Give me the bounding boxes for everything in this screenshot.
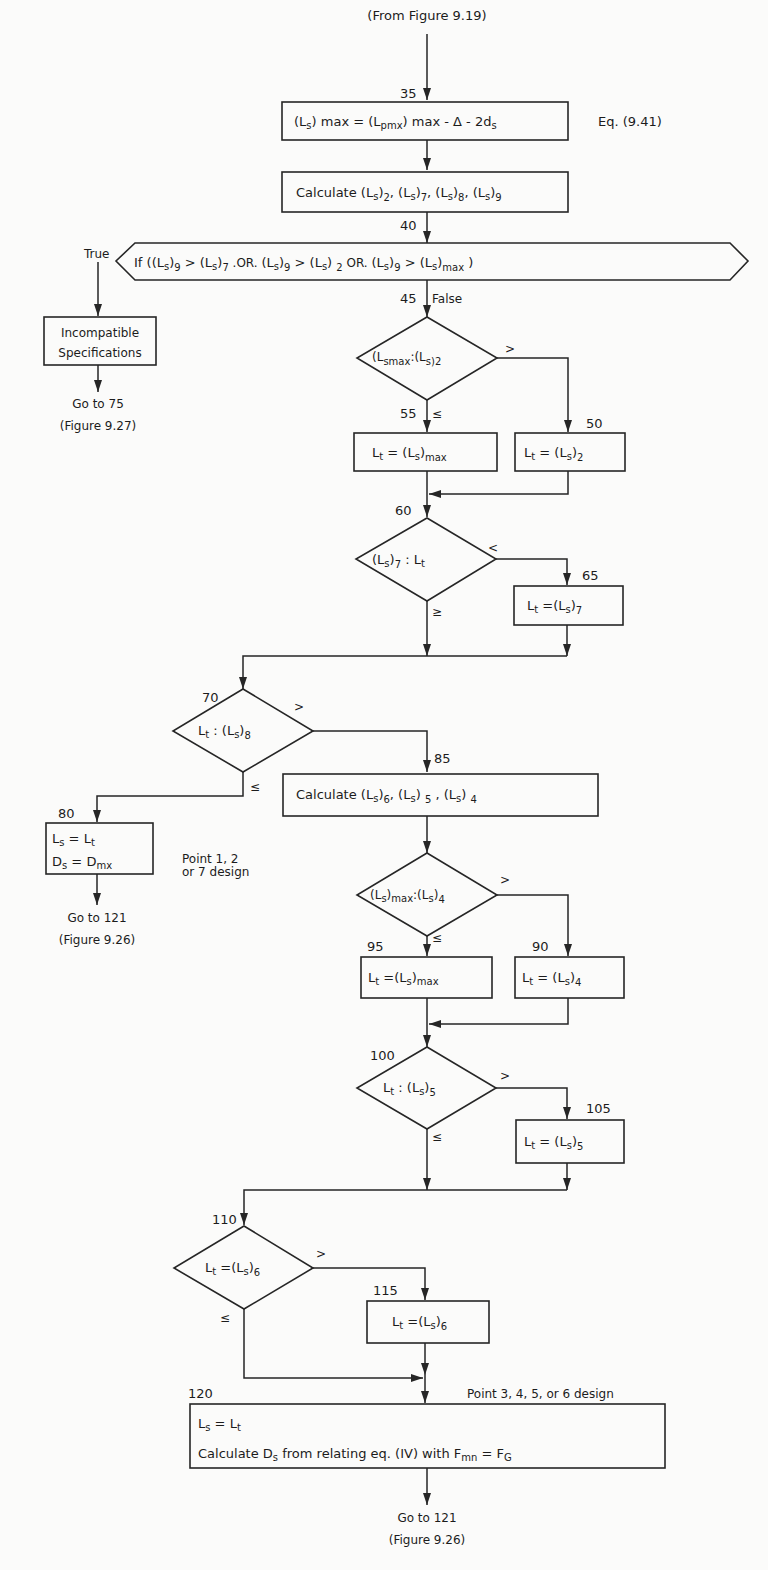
design-note-80-line1: Point 1, 2 — [182, 852, 239, 866]
true-label: True — [83, 247, 110, 261]
arrowhead-icon — [563, 1107, 571, 1119]
gt-label: > — [500, 1069, 510, 1083]
connector — [496, 1088, 567, 1119]
arrowhead-icon — [423, 1493, 431, 1505]
arrowhead-icon — [93, 893, 101, 905]
arrowhead-icon — [94, 304, 102, 316]
step-label-115: 115 — [373, 1283, 398, 1298]
ge-label: ≥ — [432, 605, 442, 619]
flowchart: (From Figure 9.19) 35 (Ls) max = (Lpmx) … — [0, 0, 768, 1570]
arrowhead-icon — [421, 1391, 429, 1403]
step-label-110: 110 — [212, 1212, 237, 1227]
arrowhead-icon — [429, 490, 441, 498]
connector — [97, 772, 243, 822]
arrowhead-icon — [411, 1374, 423, 1382]
arrowhead-icon — [423, 505, 431, 517]
arrowhead-icon — [423, 760, 431, 772]
le-label: ≤ — [220, 1311, 230, 1325]
arrowhead-icon — [423, 1178, 431, 1190]
step-label-85: 85 — [434, 751, 451, 766]
arrowhead-icon — [93, 810, 101, 822]
arrowhead-icon — [429, 1020, 441, 1028]
connector — [244, 1190, 567, 1225]
le-label: ≤ — [432, 1130, 442, 1144]
step-label-100: 100 — [370, 1048, 395, 1063]
false-label: False — [432, 292, 462, 306]
step-label-80: 80 — [58, 806, 75, 821]
arrowhead-icon — [94, 380, 102, 392]
connector — [496, 559, 567, 585]
design-note-120: Point 3, 4, 5, or 6 design — [467, 1387, 614, 1401]
goto-121-ref-b: (Figure 9.26) — [389, 1533, 466, 1547]
step-label-50: 50 — [586, 416, 603, 431]
le-label: ≤ — [432, 931, 442, 945]
goto-75-link[interactable]: Go to 75 — [72, 397, 124, 411]
step-label-70: 70 — [202, 690, 219, 705]
incompatible-line-2: Specifications — [58, 346, 141, 360]
arrowhead-icon — [423, 944, 431, 956]
arrowhead-icon — [423, 644, 431, 656]
step-label-65: 65 — [582, 568, 599, 583]
connector — [497, 358, 568, 432]
step-label-45: 45 — [400, 291, 417, 306]
lt-label: < — [488, 541, 498, 555]
arrowhead-icon — [423, 1035, 431, 1047]
arrowhead-icon — [563, 1178, 571, 1190]
arrowhead-icon — [423, 420, 431, 432]
connector — [429, 471, 568, 494]
arrowhead-icon — [423, 841, 431, 853]
step-label-35: 35 — [400, 86, 417, 101]
step-label-40: 40 — [400, 218, 417, 233]
arrowhead-icon — [423, 158, 431, 170]
goto-75-ref: (Figure 9.27) — [60, 419, 137, 433]
arrowhead-icon — [421, 1288, 429, 1300]
arrowhead-icon — [239, 677, 247, 689]
goto-121-link-b[interactable]: Go to 121 — [397, 1511, 456, 1525]
step-label-90: 90 — [532, 939, 549, 954]
arrowhead-icon — [564, 944, 572, 956]
entry-label: (From Figure 9.19) — [367, 8, 486, 23]
arrowhead-icon — [240, 1213, 248, 1225]
arrowhead-icon — [421, 1363, 429, 1375]
goto-121-ref-a: (Figure 9.26) — [59, 933, 136, 947]
step-label-95: 95 — [367, 939, 384, 954]
gt-label: > — [294, 700, 304, 714]
design-note-80-line2: or 7 design — [182, 865, 249, 879]
gt-label: > — [500, 873, 510, 887]
process-text-120-line1: Ls = Lt — [198, 1416, 241, 1433]
incompatible-line-1: Incompatible — [61, 326, 139, 340]
arrowhead-icon — [423, 305, 431, 317]
arrowhead-icon — [563, 644, 571, 656]
arrowhead-icon — [423, 88, 431, 100]
goto-121-link-a[interactable]: Go to 121 — [67, 911, 126, 925]
process-text-80-line1: Ls = Lt — [52, 831, 95, 848]
le-label: ≤ — [250, 780, 260, 794]
step-label-120: 120 — [188, 1386, 213, 1401]
step-label-105: 105 — [586, 1101, 611, 1116]
gt-label: > — [505, 342, 515, 356]
arrowhead-icon — [423, 231, 431, 243]
step-label-60: 60 — [395, 503, 412, 518]
equation-ref: Eq. (9.41) — [598, 114, 662, 129]
gt-label: > — [316, 1247, 326, 1261]
le-label: ≤ — [432, 407, 442, 421]
connector — [313, 731, 427, 772]
arrowhead-icon — [563, 573, 571, 585]
arrowhead-icon — [564, 420, 572, 432]
connector — [313, 1268, 425, 1300]
connector — [429, 998, 568, 1024]
connector — [243, 656, 567, 689]
step-label-55: 55 — [400, 406, 417, 421]
